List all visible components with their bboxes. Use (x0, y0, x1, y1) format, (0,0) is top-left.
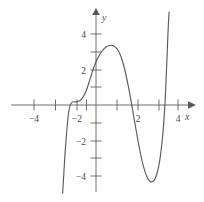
y-axis-arrow-icon (92, 8, 100, 15)
y-tick-label--4: −4 (76, 172, 86, 182)
x-tick-label--4: −4 (29, 114, 39, 124)
y-tick-label-2: 2 (81, 66, 86, 76)
y-axis-label: y (101, 12, 107, 23)
function-curve (63, 12, 170, 193)
coordinate-plot: −4 −2 2 4 4 2 −2 −4 y x (0, 0, 204, 202)
x-tick-label-4: 4 (176, 114, 181, 124)
x-tick-label-2: 2 (136, 114, 141, 124)
x-axis-arrow-icon (188, 101, 196, 109)
x-axis-label: x (184, 111, 190, 122)
x-tick-label--2: −2 (72, 114, 82, 124)
y-tick-label--2: −2 (76, 137, 86, 147)
y-tick-label-4: 4 (81, 30, 86, 40)
graph-figure: −4 −2 2 4 4 2 −2 −4 y x (0, 0, 204, 202)
